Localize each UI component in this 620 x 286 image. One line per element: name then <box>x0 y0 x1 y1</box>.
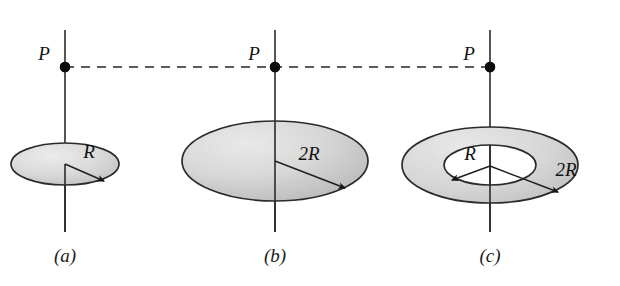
panel-a-point-label: P <box>37 43 50 64</box>
panel-b-point-dot-overlay <box>270 62 280 72</box>
panel-b-point-label: P <box>247 43 260 64</box>
panel-a-point-dot-overlay <box>60 62 70 72</box>
panel-c-point-label: P <box>462 43 475 64</box>
panel-a-radius-label: R <box>82 141 95 162</box>
physics-diagram: R P (a) 2R P (b) <box>0 0 620 286</box>
panel-c-inner-radius-label: R <box>463 143 476 164</box>
panel-b-caption: (b) <box>264 245 286 267</box>
panel-b-radius-label: 2R <box>298 143 320 164</box>
figure-container: R P (a) 2R P (b) <box>0 0 620 286</box>
panel-c-caption: (c) <box>479 245 500 267</box>
panel-c-point-dot-overlay <box>485 62 495 72</box>
panel-a-caption: (a) <box>54 245 76 267</box>
panel-c-outer-radius-label: 2R <box>555 159 577 180</box>
